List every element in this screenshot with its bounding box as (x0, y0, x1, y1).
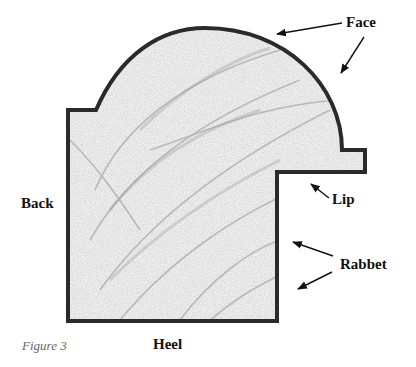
figure-caption: Figure 3 (22, 338, 67, 354)
profile-body (60, 20, 370, 330)
molding-profile-diagram (0, 0, 416, 367)
label-face: Face (346, 14, 376, 31)
face-arrow-2 (341, 37, 364, 73)
rabbet-arrow-2 (298, 272, 332, 289)
face-arrow-1 (277, 23, 342, 34)
label-heel: Heel (153, 336, 182, 353)
lip-arrow (311, 184, 329, 198)
rabbet-arrow-1 (293, 242, 333, 256)
label-lip: Lip (332, 191, 355, 208)
label-rabbet: Rabbet (340, 256, 387, 273)
label-back: Back (21, 195, 54, 212)
